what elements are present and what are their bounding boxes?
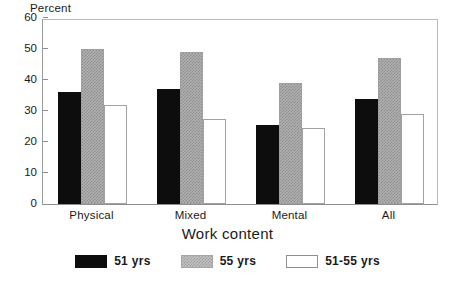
bar-group <box>58 20 127 204</box>
bar <box>104 105 127 204</box>
y-axis-tick-label: 30 <box>24 104 37 116</box>
x-axis-title: Work content <box>0 225 455 242</box>
bar <box>180 52 203 204</box>
bar <box>256 125 279 204</box>
bar <box>302 128 325 204</box>
plot-area: 0102030405060 <box>42 19 438 205</box>
legend-item: 51 yrs <box>75 254 151 268</box>
bar-chart-figure: Percent 0102030405060 PhysicalMixedMenta… <box>0 0 455 285</box>
bar <box>157 89 180 204</box>
bar <box>355 99 378 204</box>
bar <box>279 83 302 204</box>
x-axis-tick-label: Mixed <box>141 209 240 221</box>
bar <box>401 114 424 204</box>
bar <box>378 58 401 204</box>
bar-group <box>256 20 325 204</box>
bar-group <box>355 20 424 204</box>
y-axis-tick-label: 10 <box>24 166 37 178</box>
bar-layer <box>43 20 437 204</box>
y-axis-tick-label: 40 <box>24 73 37 85</box>
bar <box>81 49 104 204</box>
y-axis-tick-label: 60 <box>24 11 37 23</box>
chart-legend: 51 yrs55 yrs51-55 yrs <box>0 254 455 268</box>
x-axis-tick-label: All <box>339 209 438 221</box>
bar <box>58 92 81 204</box>
x-axis-tick-label: Physical <box>42 209 141 221</box>
legend-item: 55 yrs <box>181 254 257 268</box>
legend-swatch <box>286 255 318 268</box>
y-axis-tick-label: 50 <box>24 42 37 54</box>
x-axis-tick-label: Mental <box>240 209 339 221</box>
y-axis-tick-label: 0 <box>31 197 37 209</box>
legend-label: 51 yrs <box>114 254 151 268</box>
legend-label: 55 yrs <box>220 254 257 268</box>
legend-swatch <box>75 255 107 268</box>
legend-item: 51-55 yrs <box>286 254 380 268</box>
bar <box>203 119 226 204</box>
legend-swatch <box>181 255 213 268</box>
y-axis-tick-mark <box>43 17 48 18</box>
y-axis-tick-label: 20 <box>24 135 37 147</box>
bar-group <box>157 20 226 204</box>
legend-label: 51-55 yrs <box>325 254 380 268</box>
